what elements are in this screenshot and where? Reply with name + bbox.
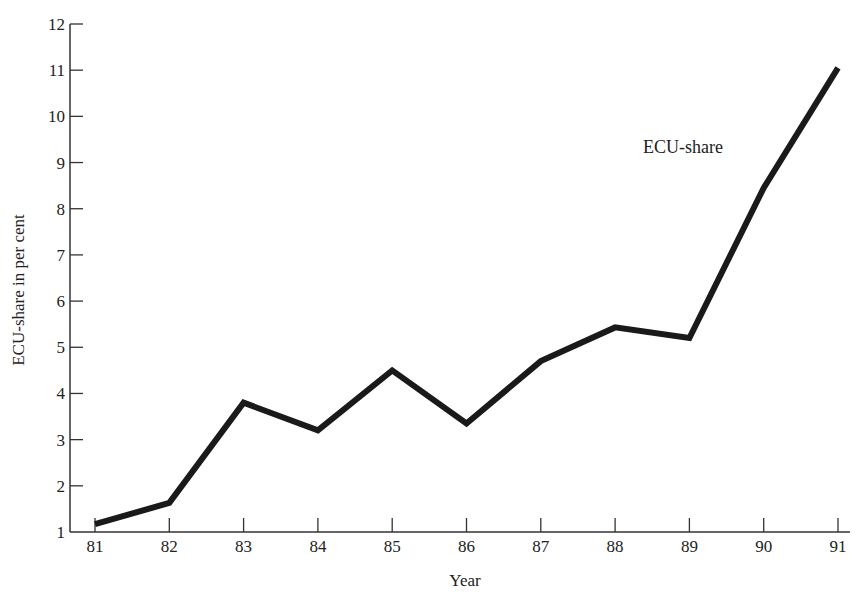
- x-tick-label: 89: [681, 537, 698, 556]
- line-chart: 123456789101112 8182838485868788899091 E…: [0, 0, 866, 600]
- x-tick-label: 84: [309, 537, 327, 556]
- y-tick-label: 7: [57, 246, 66, 265]
- y-axis: 123456789101112: [48, 15, 83, 542]
- y-tick-label: 4: [57, 384, 66, 403]
- x-tick-label: 85: [384, 537, 401, 556]
- y-tick-label: 12: [48, 15, 65, 34]
- y-tick-label: 8: [57, 200, 66, 219]
- x-tick-label: 87: [532, 537, 550, 556]
- y-tick-label: 6: [57, 292, 66, 311]
- x-axis-title: Year: [449, 571, 481, 590]
- y-tick-label: 1: [57, 523, 66, 542]
- y-tick-label: 9: [57, 154, 66, 173]
- x-tick-label: 88: [607, 537, 624, 556]
- x-axis: 8182838485868788899091: [70, 518, 850, 556]
- y-tick-label: 3: [57, 431, 66, 450]
- y-tick-label: 2: [57, 477, 66, 496]
- series-annotation: ECU-share: [643, 137, 723, 157]
- y-tick-label: 11: [49, 61, 65, 80]
- x-tick-label: 81: [87, 537, 104, 556]
- x-tick-label: 82: [161, 537, 178, 556]
- x-tick-label: 83: [235, 537, 252, 556]
- y-axis-title: ECU-share in per cent: [9, 214, 28, 366]
- y-tick-label: 10: [48, 107, 65, 126]
- ecu-share-line: [95, 68, 838, 524]
- x-tick-label: 86: [458, 537, 475, 556]
- x-tick-label: 90: [755, 537, 772, 556]
- x-tick-label: 91: [830, 537, 847, 556]
- y-tick-label: 5: [57, 338, 66, 357]
